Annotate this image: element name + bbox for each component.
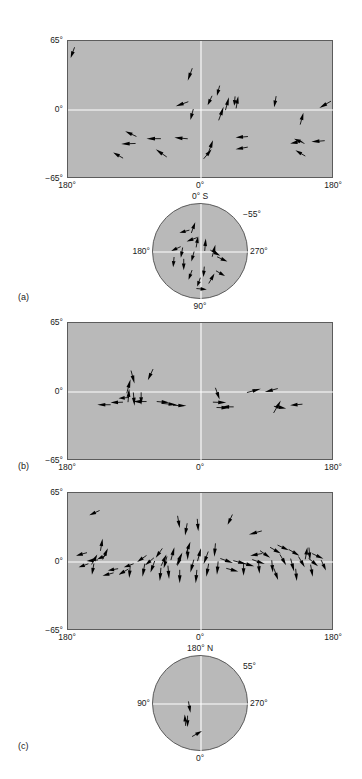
vector-arrow	[206, 564, 210, 577]
vector-arrow	[156, 149, 167, 156]
vector-arrow	[215, 388, 219, 399]
vector-arrow	[203, 239, 207, 251]
inset-north-label-upper-right: 55°	[243, 662, 256, 671]
vector-arrow	[187, 237, 197, 241]
vector-arrow	[76, 552, 87, 556]
vector-arrow	[137, 556, 146, 562]
vector-arrow	[150, 561, 154, 572]
vector-arrow	[178, 570, 182, 583]
vector-arrow	[124, 563, 133, 567]
vector-arrow	[167, 566, 171, 579]
vector-arrow	[211, 250, 221, 256]
vector-arrow	[185, 524, 189, 536]
vector-arrow	[290, 559, 294, 572]
vector-arrow	[89, 511, 99, 516]
vector-arrow	[202, 267, 206, 277]
vector-arrow	[142, 564, 146, 577]
polar-inset-south	[152, 203, 248, 299]
vector-arrow	[186, 542, 190, 553]
vector-arrow	[171, 547, 175, 560]
vector-arrow	[294, 569, 298, 581]
vector-arrow	[278, 545, 289, 550]
panel-b-xlabel-mid: 0°	[196, 463, 204, 472]
vector-arrow	[99, 539, 103, 551]
vector-field-a	[68, 41, 334, 179]
vector-arrow	[290, 403, 302, 407]
vector-arrow	[176, 102, 188, 106]
vector-arrow	[300, 113, 304, 125]
vector-arrow	[217, 257, 227, 262]
vector-field-inset-north	[153, 656, 249, 752]
vector-arrow	[79, 563, 88, 567]
inset-north-label-right: 270°	[250, 699, 268, 708]
vector-arrow	[146, 137, 160, 141]
vector-arrow	[97, 555, 106, 559]
vector-arrow	[108, 568, 118, 572]
map-panel-a	[67, 40, 333, 178]
vector-arrow	[319, 101, 330, 108]
vector-arrow	[236, 135, 248, 139]
vector-arrow	[172, 257, 176, 267]
vector-arrow	[265, 388, 278, 392]
map-panel-b	[67, 322, 333, 460]
inset-north-label-top: 180° N	[187, 644, 213, 653]
vector-arrow	[177, 516, 181, 528]
panel-c-ylabel-mid: 0°	[55, 557, 63, 566]
panel-c-xlabel-right: 180°	[324, 633, 342, 642]
vector-arrow	[289, 550, 299, 556]
vector-arrow	[204, 149, 212, 158]
panel-tag-c: (c)	[18, 741, 29, 751]
vector-arrow	[191, 252, 195, 262]
vector-arrow	[128, 566, 132, 578]
vector-field-b	[68, 323, 334, 461]
panel-c-xlabel-left: 180°	[58, 633, 76, 642]
vector-arrow	[219, 107, 224, 120]
vector-arrow	[227, 568, 239, 572]
inset-south-label-left: 180°	[132, 247, 150, 256]
vector-arrow	[304, 547, 308, 559]
vector-arrow	[270, 548, 280, 554]
vector-arrow	[71, 48, 75, 58]
vector-arrow	[111, 401, 123, 405]
vector-arrow	[274, 97, 278, 108]
vector-arrow	[213, 400, 226, 404]
vector-field-inset-south	[153, 204, 249, 300]
inset-north-label-bottom: 0°	[196, 754, 204, 763]
vector-arrow	[260, 551, 270, 558]
vector-arrow	[311, 139, 324, 143]
vector-arrow	[216, 271, 225, 276]
vector-arrow	[217, 86, 221, 96]
vector-arrow	[125, 131, 136, 136]
vector-arrow	[180, 248, 184, 258]
inset-south-label-right: 270°	[250, 247, 268, 256]
vector-arrow	[274, 569, 278, 580]
vector-arrow	[249, 531, 262, 535]
vector-arrow	[182, 259, 186, 270]
polar-inset-north	[152, 655, 248, 751]
panel-tag-a: (a)	[18, 292, 29, 302]
vector-arrow	[195, 570, 199, 583]
panel-c-ylabel-top: 65°	[50, 488, 63, 497]
vector-arrow	[228, 515, 233, 525]
inset-south-label-bottom: 90°	[194, 302, 207, 311]
vector-arrow	[196, 519, 200, 531]
panel-a-xlabel-right: 180°	[324, 181, 342, 190]
vector-arrow	[213, 544, 217, 557]
vector-arrow	[91, 564, 95, 575]
panel-a-ylabel-top: 65°	[50, 36, 63, 45]
vector-arrow	[113, 152, 123, 158]
panel-b-xlabel-right: 180°	[324, 463, 342, 472]
panel-a-xlabel-left: 180°	[58, 181, 76, 190]
inset-north-label-left: 90°	[137, 699, 150, 708]
vector-arrow	[148, 369, 153, 380]
vector-arrow	[197, 287, 207, 291]
vector-arrow	[209, 140, 213, 151]
vector-arrow	[233, 97, 237, 106]
panel-a-ylabel-mid: 0°	[55, 105, 63, 114]
vector-arrow	[197, 548, 201, 561]
panel-b-xlabel-left: 180°	[58, 463, 76, 472]
panel-tag-b: (b)	[18, 461, 29, 471]
vector-arrow	[97, 403, 110, 407]
vector-arrow	[179, 229, 189, 233]
vector-arrow	[242, 564, 246, 576]
